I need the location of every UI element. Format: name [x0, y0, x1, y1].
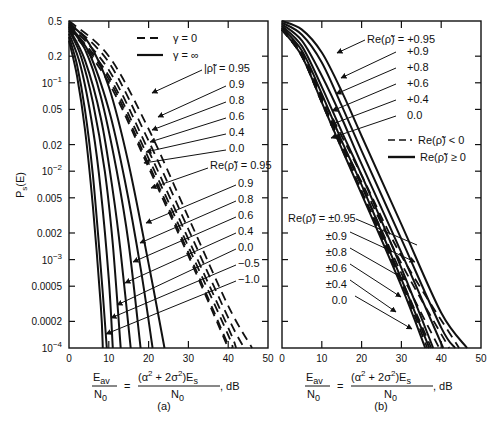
- annotation-label: +0.8: [407, 61, 429, 73]
- legend-dashed-label: γ = 0: [173, 32, 197, 44]
- svg-text:, dB: , dB: [433, 380, 453, 392]
- panel-b-top-annotations: Re(ρ̃) = +0.95 +0.9+0.8+0.6+0.40.0: [330, 33, 435, 138]
- rho-magnitude-header: |ρ̃| = 0.95: [204, 62, 250, 74]
- panel-b-legend: Re(ρ̃) < 0 Re(ρ̃) ≥ 0: [388, 134, 466, 163]
- curve: [282, 28, 459, 348]
- panel-b-caption: (b): [374, 400, 387, 412]
- annotation-label: −0.5: [238, 257, 260, 269]
- figure: Ps(E) 0.50.210−10.050.0210−20.0050.00210…: [0, 0, 500, 429]
- x-tick-label: 10: [316, 353, 328, 364]
- x-tick-label: 20: [143, 353, 155, 364]
- annotation-label: 0.8: [238, 193, 253, 205]
- svg-text:Ps(E): Ps(E): [14, 172, 29, 198]
- panel-a-caption: (a): [157, 400, 170, 412]
- re-rho-header: Re(ρ̃) = 0.95: [210, 159, 272, 171]
- annotation-label: ±0.4: [326, 278, 347, 290]
- annotation-label: 0.0: [407, 109, 422, 121]
- annotation-label: 0.8: [229, 94, 244, 106]
- re-rho-bottom-header: Re(ρ̃) = ±0.95: [288, 212, 356, 224]
- panel-b-x-tick-labels: 01020304050: [279, 353, 487, 364]
- y-tick-label: 0.002: [37, 228, 62, 239]
- legend-dashed-label: Re(ρ̃) < 0: [418, 134, 464, 146]
- svg-text:Eav: Eav: [306, 371, 323, 386]
- panel-b-curves: [282, 21, 467, 348]
- annotation-label: 0.0: [332, 294, 347, 306]
- svg-text:=: =: [337, 380, 343, 392]
- panel-a: 01020304050 γ = 0 γ = ∞ |ρ̃| = 0.95 0.90…: [66, 21, 274, 412]
- legend-solid-label: γ = ∞: [173, 49, 199, 61]
- y-tick-label: 0.0002: [31, 316, 62, 327]
- x-tick-label: 50: [262, 353, 274, 364]
- x-tick-label: 30: [396, 353, 408, 364]
- y-tick-label: 0.02: [43, 140, 63, 151]
- svg-text:, dB: , dB: [220, 380, 240, 392]
- x-tick-label: 20: [356, 353, 368, 364]
- y-tick-label: 0.005: [37, 193, 62, 204]
- panel-a-re-rho-annotations: Re(ρ̃) = 0.95 0.90.80.60.40.0−0.5−1.0: [106, 159, 272, 334]
- y-axis-label: Ps(E): [14, 172, 29, 198]
- annotation-label: −1.0: [238, 273, 260, 285]
- y-tick-label: 10−2: [42, 163, 63, 177]
- curve: [282, 30, 427, 348]
- x-tick-label: 0: [279, 353, 285, 364]
- annotation-label: 0.4: [238, 225, 253, 237]
- y-tick-label: 10−1: [42, 75, 63, 89]
- x-tick-label: 10: [103, 353, 115, 364]
- annotation-label: 0.9: [238, 177, 253, 189]
- svg-text:(α2 + 2σ2)Es: (α2 + 2σ2)Es: [351, 369, 411, 386]
- x-tick-label: 30: [183, 353, 195, 364]
- y-tick-label: 10−3: [42, 252, 63, 266]
- annotation-label: 0.4: [229, 126, 244, 138]
- svg-text:N0: N0: [94, 388, 107, 403]
- panel-b-x-axis-label: EavN0=(α2 + 2σ2)EsN0, dB: [305, 369, 453, 403]
- annotation-label: ±0.9: [326, 230, 347, 242]
- annotation-label: 0.0: [229, 142, 244, 154]
- curve: [282, 30, 425, 348]
- y-tick-label: 10−4: [42, 340, 63, 354]
- curve: [69, 28, 228, 348]
- y-tick-labels: 0.50.210−10.050.0210−20.0050.00210−30.00…: [31, 16, 62, 354]
- x-tick-label: 0: [66, 353, 72, 364]
- panel-a-x-tick-labels: 01020304050: [66, 353, 274, 364]
- annotation-label: 0.9: [229, 78, 244, 90]
- re-rho-top-header: Re(ρ̃) = +0.95: [367, 33, 435, 45]
- annotation-label: +0.4: [407, 93, 429, 105]
- x-tick-label: 40: [223, 353, 235, 364]
- y-tick-label: 0.2: [48, 51, 62, 62]
- annotation-label: 0.6: [238, 209, 253, 221]
- svg-text:N0: N0: [307, 388, 320, 403]
- svg-text:Eav: Eav: [93, 371, 110, 386]
- panel-a-rho-magnitude-annotations: |ρ̃| = 0.95 0.90.80.60.40.0: [144, 62, 250, 163]
- annotation-label: +0.9: [407, 45, 429, 57]
- annotation-label: 0.0: [238, 241, 253, 253]
- legend-solid-label: Re(ρ̃) ≥ 0: [420, 151, 466, 163]
- svg-text:N0: N0: [171, 388, 184, 403]
- panel-a-legend: γ = 0 γ = ∞: [137, 32, 199, 61]
- y-tick-label: 0.05: [43, 104, 63, 115]
- annotation-label: +0.6: [407, 77, 429, 89]
- x-tick-label: 40: [436, 353, 448, 364]
- y-tick-label: 0.5: [48, 16, 62, 27]
- panel-a-x-axis-label: EavN0=(α2 + 2σ2)EsN0, dB: [92, 369, 240, 403]
- y-tick-label: 0.0005: [31, 281, 62, 292]
- x-tick-label: 50: [475, 353, 487, 364]
- svg-text:=: =: [124, 380, 130, 392]
- annotation-label: 0.6: [229, 110, 244, 122]
- annotation-label: ±0.8: [326, 246, 347, 258]
- svg-text:(α2 + 2σ2)Es: (α2 + 2σ2)Es: [138, 369, 198, 386]
- annotation-label: ±0.6: [326, 262, 347, 274]
- panel-b: 01020304050 Re(ρ̃) = +0.95 +0.9+0.8+0.6+…: [279, 21, 487, 412]
